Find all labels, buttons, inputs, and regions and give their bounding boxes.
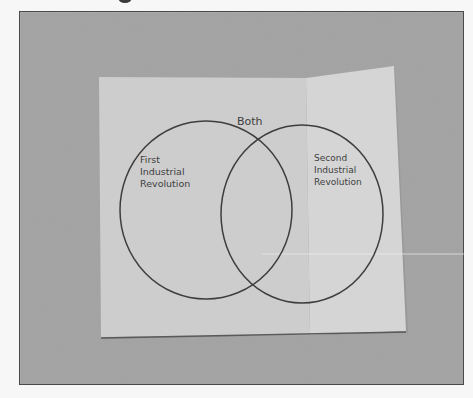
paper-left-panel — [99, 77, 310, 337]
overlap-label: Both — [237, 115, 263, 128]
svg-text:Revolution: Revolution — [314, 177, 362, 187]
svg-text:Industrial: Industrial — [314, 165, 356, 175]
svg-text:Second: Second — [314, 153, 347, 163]
paper-right-panel — [306, 66, 406, 335]
venn-photo: Both First Industrial Revolution Second … — [0, 0, 473, 398]
svg-text:Industrial: Industrial — [140, 166, 185, 177]
svg-text:First: First — [140, 154, 160, 165]
svg-text:Revolution: Revolution — [140, 178, 190, 189]
